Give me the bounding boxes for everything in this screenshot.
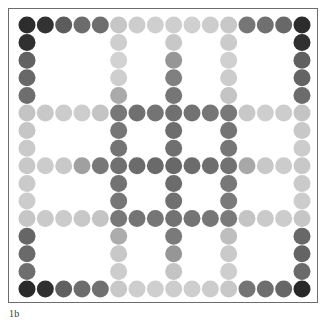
- data-dot: [110, 52, 127, 69]
- data-dot: [257, 210, 274, 227]
- data-dot: [184, 210, 201, 227]
- data-dot: [129, 157, 146, 174]
- data-dot: [220, 17, 237, 34]
- data-dot: [275, 281, 292, 298]
- data-dot: [239, 210, 256, 227]
- data-dot: [202, 17, 219, 34]
- data-dot: [275, 17, 292, 34]
- data-dot: [165, 193, 182, 210]
- data-dot: [220, 263, 237, 280]
- data-dot: [19, 17, 36, 34]
- data-dot: [19, 175, 36, 192]
- data-dot: [220, 175, 237, 192]
- data-dot: [220, 34, 237, 51]
- data-dot: [294, 263, 311, 280]
- data-dot: [19, 281, 36, 298]
- data-dot: [19, 245, 36, 262]
- data-dot: [294, 52, 311, 69]
- figure-frame: [8, 8, 318, 303]
- data-dot: [165, 175, 182, 192]
- data-dot: [202, 105, 219, 122]
- data-dot: [294, 122, 311, 139]
- data-dot: [92, 105, 109, 122]
- data-dot: [220, 105, 237, 122]
- data-dot: [37, 17, 54, 34]
- data-dot: [74, 157, 91, 174]
- data-dot: [202, 157, 219, 174]
- data-dot: [294, 105, 311, 122]
- data-dot: [74, 210, 91, 227]
- data-dot: [19, 122, 36, 139]
- data-dot: [19, 210, 36, 227]
- data-dot: [110, 17, 127, 34]
- data-dot: [220, 52, 237, 69]
- data-dot: [147, 105, 164, 122]
- data-dot: [220, 87, 237, 104]
- data-dot: [294, 210, 311, 227]
- data-dot: [165, 105, 182, 122]
- data-dot: [294, 245, 311, 262]
- data-dot: [275, 157, 292, 174]
- data-dot: [110, 210, 127, 227]
- data-dot: [165, 245, 182, 262]
- data-dot: [165, 210, 182, 227]
- data-dot: [294, 17, 311, 34]
- data-dot: [110, 69, 127, 86]
- data-dot: [202, 281, 219, 298]
- data-dot: [92, 157, 109, 174]
- data-dot: [74, 105, 91, 122]
- data-dot: [110, 245, 127, 262]
- data-dot: [147, 17, 164, 34]
- data-dot: [165, 281, 182, 298]
- data-dot: [165, 52, 182, 69]
- data-dot: [19, 228, 36, 245]
- data-dot: [19, 140, 36, 157]
- data-dot: [220, 122, 237, 139]
- data-dot: [294, 69, 311, 86]
- data-dot: [19, 34, 36, 51]
- data-dot: [165, 228, 182, 245]
- data-dot: [92, 17, 109, 34]
- data-dot: [55, 281, 72, 298]
- data-dot: [239, 281, 256, 298]
- data-dot: [37, 105, 54, 122]
- data-dot: [294, 281, 311, 298]
- data-dot: [110, 34, 127, 51]
- data-dot: [37, 281, 54, 298]
- data-dot: [110, 157, 127, 174]
- data-dot: [110, 140, 127, 157]
- data-dot: [184, 157, 201, 174]
- data-dot: [294, 175, 311, 192]
- data-dot: [294, 228, 311, 245]
- data-dot: [257, 281, 274, 298]
- data-dot: [184, 17, 201, 34]
- data-dot: [110, 175, 127, 192]
- data-dot: [19, 69, 36, 86]
- data-dot: [110, 263, 127, 280]
- data-dot: [74, 281, 91, 298]
- data-dot: [110, 105, 127, 122]
- data-dot: [294, 157, 311, 174]
- data-dot: [165, 17, 182, 34]
- data-dot: [220, 228, 237, 245]
- data-dot: [55, 17, 72, 34]
- data-dot: [165, 263, 182, 280]
- data-dot: [19, 52, 36, 69]
- data-dot: [147, 281, 164, 298]
- data-dot: [110, 281, 127, 298]
- data-dot: [92, 281, 109, 298]
- data-dot: [110, 122, 127, 139]
- data-dot: [220, 157, 237, 174]
- data-dot: [19, 87, 36, 104]
- data-dot: [129, 105, 146, 122]
- data-dot: [220, 210, 237, 227]
- data-dot: [129, 281, 146, 298]
- data-dot: [92, 210, 109, 227]
- data-dot: [74, 17, 91, 34]
- data-dot: [110, 87, 127, 104]
- data-dot: [19, 193, 36, 210]
- data-dot: [220, 69, 237, 86]
- data-dot: [257, 157, 274, 174]
- data-dot: [55, 157, 72, 174]
- data-dot: [165, 122, 182, 139]
